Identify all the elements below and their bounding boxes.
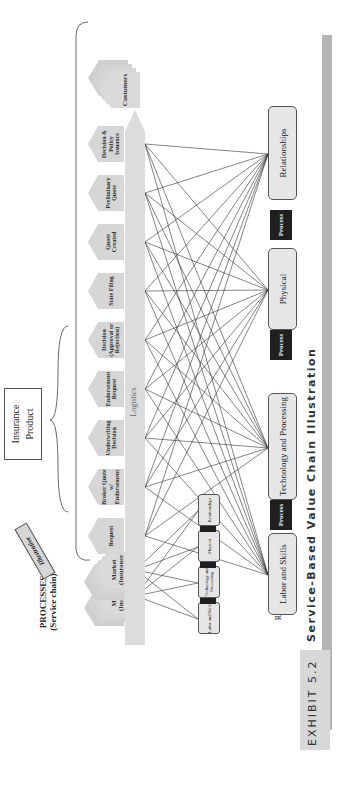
logistics-label: Logistics	[129, 372, 138, 432]
resource-labor-skills: Labor and Skills	[268, 533, 297, 615]
process-step-label: Endorsement Request	[98, 371, 124, 407]
resource-technology-processing-label: Technology and Processing	[278, 397, 288, 496]
process-step-label: Quote Created	[98, 224, 124, 260]
resource-relationships-label: Relationships	[278, 129, 288, 178]
resource-physical: Physical	[268, 248, 297, 330]
exhibit-title: Service-Based Value Chain Illustration	[305, 322, 318, 642]
process-connector-3: Process	[270, 210, 292, 240]
mini-process-2	[200, 562, 216, 568]
resource-relationships: Relationships	[268, 106, 297, 200]
mini-resource-technology: Technology and Processing	[198, 566, 220, 598]
mini-resource-relationships: Relationships	[198, 494, 220, 526]
process-step-label: Preliminary Quote	[98, 175, 124, 211]
service-chain-bracket	[76, 22, 90, 560]
process-step-label: Request	[98, 518, 124, 554]
process-connector-2: Process	[270, 330, 292, 360]
mini-resource-labor: Labor and Skills	[198, 602, 220, 634]
insurance-product-label: Insurance Product	[4, 388, 42, 460]
mini-resource-physical: Physical	[198, 530, 220, 562]
mini-process-3	[200, 526, 216, 532]
process-connector-1: Process	[270, 500, 292, 530]
exhibit-page: EXHIBIT 5.2 Service-Based Value Chain Il…	[0, 0, 350, 812]
mini-resource-technology-label: Technology and Processing	[204, 567, 214, 597]
resource-labor-skills-label: Labor and Skills	[278, 544, 288, 604]
mini-process-1	[200, 598, 216, 604]
mini-resource-physical-label: Physical	[207, 538, 212, 553]
insurance-product-brace	[50, 326, 68, 512]
process-step-label: Underwriting Decision	[98, 420, 124, 456]
connection-lines	[0, 0, 350, 812]
resource-technology-processing: Technology and Processing	[268, 393, 297, 500]
exhibit-number: EXHIBIT 5.2	[306, 650, 319, 746]
resource-physical-label: Physical	[278, 274, 288, 305]
process-step-label: Decision (Approval or Rejection)	[98, 322, 124, 358]
exhibit-band	[322, 35, 332, 730]
customers-label: Customers	[110, 72, 140, 108]
mini-resource-relationships-label: Relationships	[207, 498, 212, 523]
process-step-label: State Filing	[98, 273, 124, 309]
mini-resource-labor-label: Labor and Skills	[207, 603, 212, 633]
process-step-label: Decision & Policy Issuance	[98, 126, 124, 162]
process-step-label: Broker Quote w/ Endorsement	[98, 469, 124, 505]
